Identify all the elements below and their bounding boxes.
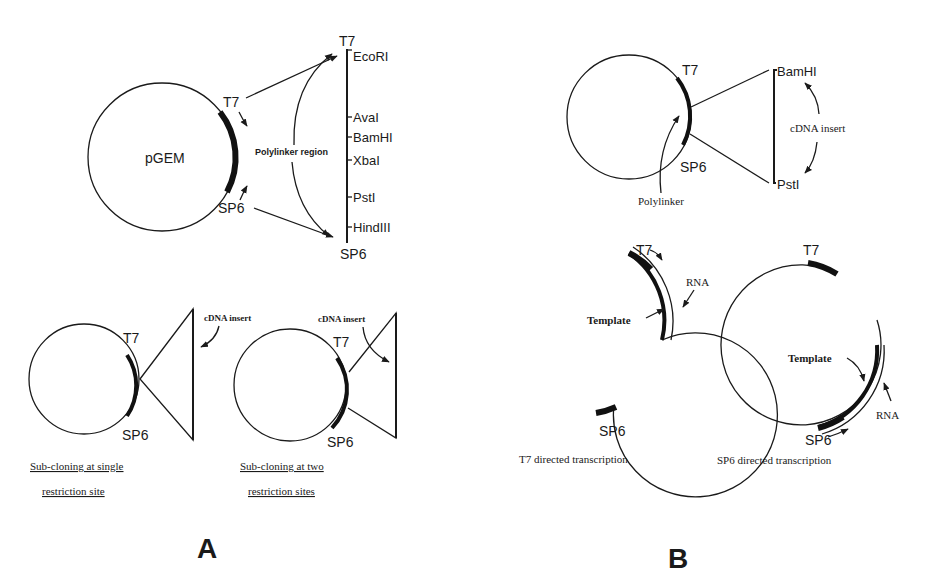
- two-site-sp6-label: SP6: [327, 434, 354, 450]
- t7-transcription-caption: T7 directed transcription: [519, 453, 628, 465]
- insert-plasmid-t7-label: T7: [682, 62, 699, 78]
- pgem-cloning-figure: pGEM T7 SP6 Polylinker region T7 SP6 Eco…: [0, 0, 928, 582]
- t7-rna-pointer-arrow-icon: [683, 290, 694, 307]
- insert-site-psti: PstI: [777, 177, 799, 192]
- pgem-plasmid-label: pGEM: [145, 150, 185, 166]
- restriction-site-psti: PstI: [353, 190, 375, 205]
- pgem-plasmid-diagram: pGEM T7 SP6 Polylinker region T7 SP6 Eco…: [88, 33, 393, 262]
- sp6-transcription-rna-label: RNA: [876, 409, 899, 421]
- insert-plasmid-circle: [567, 55, 691, 179]
- single-site-sp6-label: SP6: [122, 427, 149, 443]
- two-site-caption-line1: Sub-cloning at two: [240, 460, 324, 472]
- t7-template-pointer-arrow-icon: [646, 309, 664, 318]
- single-site-insert-arrow-icon: [201, 326, 219, 347]
- sp6-transcription-template-label: Template: [788, 352, 832, 364]
- sp6-to-linker-arrow-icon: [254, 208, 333, 237]
- polylinker-lower-curve-arrow-icon: [292, 162, 329, 236]
- restriction-site-hindiii: HindIII: [353, 220, 391, 235]
- t7-transcription-sp6-label: SP6: [599, 423, 626, 439]
- insert-plasmid-diagram: T7 SP6 BamHI PstI cDNA insert Polylinker: [567, 55, 845, 207]
- sp6-rna-pointer-arrow-icon: [884, 383, 891, 401]
- linker-t7-label: T7: [339, 33, 356, 49]
- pgem-polylinker-segment: [220, 112, 236, 192]
- single-site-caption-line1: Sub-cloning at single: [30, 460, 124, 472]
- sp6-transcription-sp6-label: SP6: [805, 432, 832, 448]
- panel-a: pGEM T7 SP6 Polylinker region T7 SP6 Eco…: [29, 33, 396, 564]
- single-site-t7-label: T7: [123, 330, 140, 346]
- pgem-sp6-label: SP6: [218, 200, 245, 216]
- linker-sp6-label: SP6: [340, 246, 367, 262]
- sp6-transcription-caption: SP6 directed transcription: [717, 454, 832, 466]
- restriction-site-ecori: EcoRI: [353, 49, 388, 64]
- insert-up-arrow-icon: [805, 83, 819, 114]
- two-site-plasmid-circle: [234, 329, 346, 441]
- two-site-subcloning-diagram: T7 SP6 cDNA insert Sub-cloning at two re…: [234, 313, 396, 497]
- t7-transcription-plasmid-arc: [613, 333, 777, 497]
- polylinker-pointer-arrow-icon: [660, 116, 679, 193]
- pgem-t7-label: T7: [223, 94, 240, 110]
- insert-site-bamhi: BamHI: [777, 64, 817, 79]
- two-site-insert-shape: [348, 313, 396, 438]
- t7-transcription-template-label: Template: [587, 314, 631, 326]
- sp6-template-pointer-arrow-icon: [847, 358, 864, 381]
- sp6-direction-arrow-icon: [240, 186, 247, 200]
- sp6-transcription-t7-label: T7: [803, 242, 820, 258]
- sp6-transcription-diagram: T7 Template RNA SP6 SP6 directed transcr…: [717, 242, 899, 466]
- insert-cdna-label: cDNA insert: [790, 122, 845, 134]
- insert-down-arrow-icon: [805, 142, 817, 173]
- two-site-insert-arrow-icon: [363, 327, 389, 362]
- single-site-insert-label: cDNA insert: [204, 313, 251, 323]
- insert-plasmid-sp6-label: SP6: [680, 159, 707, 175]
- two-site-caption-line2: restriction sites: [248, 485, 315, 497]
- two-site-insert-label: cDNA insert: [318, 314, 365, 324]
- panel-a-label: A: [197, 533, 217, 564]
- insert-plasmid-polylinker-segment: [677, 78, 690, 145]
- restriction-site-bamhi: BamHI: [353, 130, 393, 145]
- polylinker-region-label: Polylinker region: [255, 147, 328, 157]
- restriction-site-xbai: XbaI: [353, 153, 380, 168]
- two-site-polylinker-segment: [332, 358, 347, 428]
- single-site-polylinker-segment: [127, 355, 136, 416]
- two-site-t7-label: T7: [333, 334, 350, 350]
- sp6-t7-block: [808, 263, 837, 274]
- restriction-site-list: EcoRI AvaI BamHI XbaI PstI HindIII: [347, 49, 393, 235]
- t7-transcription-rna-label: RNA: [686, 276, 709, 288]
- panel-b: T7 SP6 BamHI PstI cDNA insert Polylinker…: [519, 55, 899, 574]
- restriction-site-avai: AvaI: [353, 110, 379, 125]
- single-site-subcloning-diagram: T7 SP6 cDNA insert Sub-cloning at single…: [29, 309, 251, 497]
- single-site-caption-line2: restriction site: [42, 485, 105, 497]
- polylinker-label: Polylinker: [638, 195, 684, 207]
- panel-b-label: B: [668, 543, 688, 574]
- single-site-insert-triangle: [140, 309, 193, 440]
- insert-bracket: [773, 70, 777, 183]
- t7-direction-arrow-icon: [239, 112, 247, 126]
